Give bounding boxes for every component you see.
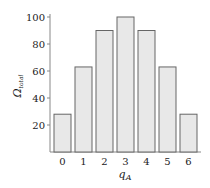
y-tick-label: 20 xyxy=(32,120,45,131)
bar xyxy=(180,114,197,152)
x-ticks: 0123456 xyxy=(59,156,191,167)
bar xyxy=(75,67,92,152)
x-axis-label-subscript: A xyxy=(125,173,132,182)
bar xyxy=(54,114,71,152)
x-tick-label: 5 xyxy=(164,156,170,167)
y-ticks: 20406080100 xyxy=(26,12,50,131)
bar xyxy=(96,31,113,153)
y-tick-label: 60 xyxy=(32,66,45,77)
x-tick-label: 4 xyxy=(143,156,149,167)
y-tick-label: 80 xyxy=(32,39,45,50)
y-axis-label: Ωtotal xyxy=(11,74,24,98)
x-tick-label: 1 xyxy=(80,156,86,167)
bar xyxy=(138,31,155,153)
x-tick-label: 0 xyxy=(59,156,65,167)
y-tick-label: 100 xyxy=(26,12,45,23)
x-axis-label-main: q xyxy=(119,168,126,181)
y-axis-label-main: Ω xyxy=(11,88,24,98)
bar xyxy=(117,17,134,152)
y-tick-label: 40 xyxy=(32,93,45,104)
bars xyxy=(54,17,197,152)
bar xyxy=(159,67,176,152)
x-tick-label: 2 xyxy=(101,156,107,167)
bar-chart: 20406080100 0123456 qA Ωtotal xyxy=(0,0,210,188)
x-axis-label: qA xyxy=(119,168,132,182)
y-axis-label-subscript: total xyxy=(17,74,24,88)
x-tick-label: 3 xyxy=(122,156,128,167)
x-tick-label: 6 xyxy=(185,156,191,167)
